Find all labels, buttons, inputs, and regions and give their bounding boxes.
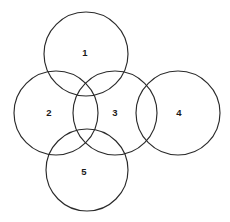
circle-2-label: 2 (46, 107, 51, 118)
venn-diagram-svg: 1 2 3 4 5 (0, 0, 230, 222)
circle-4-label: 4 (176, 107, 182, 118)
circle-1-label: 1 (82, 47, 88, 58)
circle-3-label: 3 (112, 107, 117, 118)
diagram-canvas: 1 2 3 4 5 (0, 0, 230, 222)
circle-5-label: 5 (81, 166, 87, 177)
